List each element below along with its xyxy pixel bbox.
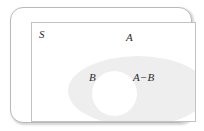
universal-set-frame: S A B A−B (10, 7, 192, 123)
inner-frame (31, 22, 196, 122)
venn-diagram-figure: S A B A−B (0, 0, 204, 131)
set-a-label: A (126, 32, 133, 43)
set-difference-label: A−B (133, 72, 154, 83)
set-b-label: B (89, 72, 96, 83)
universal-set-label: S (39, 29, 45, 40)
set-b-circle (92, 71, 137, 116)
